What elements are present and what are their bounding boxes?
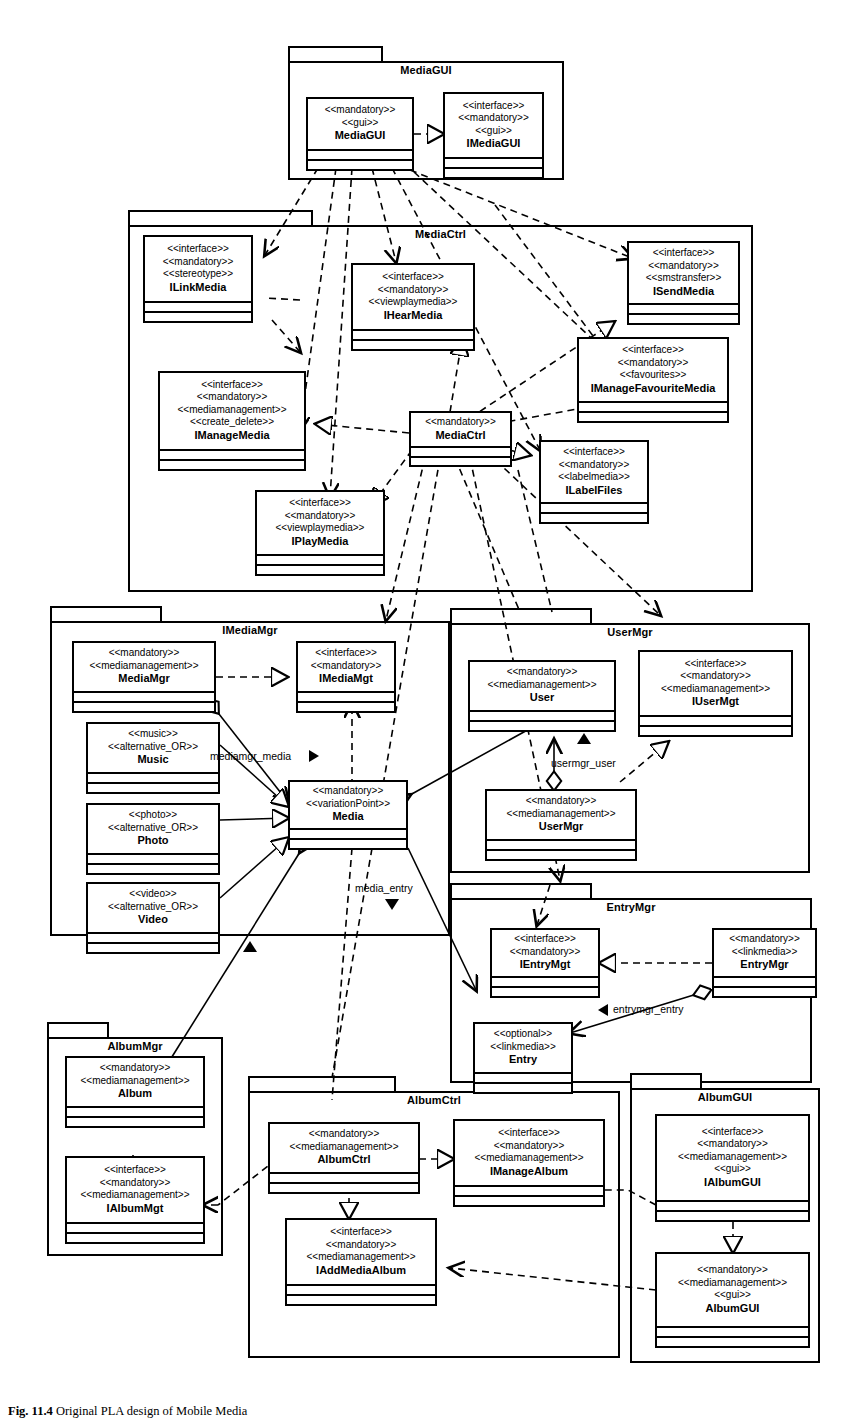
class-header: <<interface>> <<mandatory>> <<viewplayme…	[257, 492, 383, 554]
class-name: MediaCtrl	[435, 429, 485, 443]
navigation-triangle-media-entry	[385, 899, 399, 910]
class-isendmedia[interactable]: <<interface>> <<mandatory>> <<smstransfe…	[627, 241, 740, 325]
class-user[interactable]: <<mandatory>> <<mediamanagement>> User	[468, 660, 616, 732]
stereotype: <<gui>>	[714, 1289, 751, 1302]
class-iusermgt[interactable]: <<interface>> <<mandatory>> <<mediamanag…	[638, 650, 793, 737]
attributes-compartment	[455, 1185, 603, 1195]
operations-compartment	[88, 782, 218, 792]
operations-compartment	[640, 725, 791, 735]
attributes-compartment	[353, 329, 473, 339]
class-mediamgr[interactable]: <<mandatory>> <<mediamanagement>> MediaM…	[72, 641, 216, 713]
class-music[interactable]: <<music>> <<alternative_OR>> Music	[86, 722, 220, 794]
package-title: MediaGUI	[288, 64, 564, 76]
package-tab	[288, 46, 383, 62]
stereotype: <<mandatory>>	[648, 260, 719, 273]
package-title: IMediaMgr	[50, 624, 450, 636]
class-name: Photo	[137, 834, 168, 848]
class-name: IMediaGUI	[467, 137, 521, 151]
stereotype: <<mandatory>>	[526, 795, 597, 808]
class-albumctrl[interactable]: <<mandatory>> <<mediamanagement>> AlbumC…	[268, 1122, 420, 1194]
navigation-triangle-mediamgr-media	[309, 750, 319, 762]
stereotype: <<interface>>	[653, 247, 715, 260]
operations-compartment	[145, 311, 251, 321]
class-mediagui[interactable]: <<mandatory>> <<gui>> MediaGUI	[306, 97, 414, 171]
stereotype: <<stereotype>>	[163, 268, 233, 281]
class-imediamgt[interactable]: <<interface>> <<mandatory>> IMediaMgt	[296, 641, 396, 713]
stereotype: <<mandatory>>	[309, 1128, 380, 1141]
stereotype: <<interface>>	[685, 658, 747, 671]
stereotype: <<viewplaymedia>>	[369, 296, 458, 309]
operations-compartment	[88, 863, 218, 873]
class-ilinkmedia[interactable]: <<interface>> <<mandatory>> <<stereotype…	[143, 235, 253, 323]
operations-compartment	[487, 849, 635, 859]
attributes-compartment	[145, 301, 251, 311]
class-header: <<interface>> <<mandatory>> <<smstransfe…	[629, 243, 738, 303]
attributes-compartment	[298, 691, 394, 701]
class-iplaymedia[interactable]: <<interface>> <<mandatory>> <<viewplayme…	[255, 490, 385, 576]
stereotype: <<gui>>	[342, 117, 379, 130]
class-header: <<interface>> <<mandatory>> <<mediamanag…	[640, 652, 791, 715]
class-header: <<interface>> <<mandatory>> <<stereotype…	[145, 237, 251, 301]
package-tab	[630, 1073, 702, 1089]
class-mediactrl[interactable]: <<mandatory>> MediaCtrl	[409, 411, 512, 467]
stereotype: <<mediamanagement>>	[507, 808, 616, 821]
stereotype: <<mediamanagement>>	[307, 1251, 416, 1264]
class-video[interactable]: <<video>> <<alternative_OR>> Video	[86, 882, 220, 954]
package-tab	[128, 210, 313, 226]
class-imanagealbum[interactable]: <<interface>> <<mandatory>> <<mediamanag…	[453, 1119, 605, 1207]
class-name: Media	[332, 810, 363, 824]
stereotype: <<mandatory>>	[100, 1177, 171, 1190]
class-header: <<photo>> <<alternative_OR>> Photo	[88, 805, 218, 853]
class-name: IPlayMedia	[292, 535, 349, 549]
class-photo[interactable]: <<photo>> <<alternative_OR>> Photo	[86, 803, 220, 875]
stereotype: <<mandatory>>	[311, 660, 382, 673]
attributes-compartment	[290, 828, 406, 838]
class-imanagefavouritemedia[interactable]: <<interface>> <<mandatory>> <<favourites…	[577, 337, 729, 423]
attributes-compartment	[257, 554, 383, 564]
navigation-triangle-album-media	[243, 941, 257, 952]
attributes-compartment	[487, 839, 635, 849]
stereotype: <<optional>>	[494, 1028, 552, 1041]
stereotype: <<alternative_OR>>	[108, 741, 198, 754]
class-usermgr[interactable]: <<mandatory>> <<mediamanagement>> UserMg…	[485, 789, 637, 861]
class-album[interactable]: <<mandatory>> <<mediamanagement>> Album	[65, 1056, 205, 1128]
stereotype: <<mandatory>>	[680, 670, 751, 683]
stereotype: <<smstransfer>>	[646, 272, 722, 285]
class-ialbummgt[interactable]: <<interface>> <<mandatory>> <<mediamanag…	[65, 1156, 205, 1244]
operations-compartment	[270, 1182, 418, 1192]
class-ihearmedia[interactable]: <<interface>> <<mandatory>> <<viewplayme…	[351, 263, 475, 351]
class-iaddmediaalbum[interactable]: <<interface>> <<mandatory>> <<mediamanag…	[285, 1218, 437, 1306]
class-ientrymgt[interactable]: <<interface>> <<mandatory>> IEntryMgt	[490, 928, 600, 998]
class-albumgui[interactable]: <<mandatory>> <<mediamanagement>> <<gui>…	[655, 1252, 810, 1348]
class-name: EntryMgr	[740, 958, 788, 972]
class-header: <<interface>> <<mandatory>> <<labelmedia…	[541, 442, 647, 502]
operations-compartment	[308, 159, 412, 169]
class-ialbumgui[interactable]: <<interface>> <<mandatory>> <<mediamanag…	[655, 1114, 810, 1222]
stereotype: <<linkmedia>>	[732, 946, 798, 959]
class-imediagui[interactable]: <<interface>> <<mandatory>> <<gui>> IMed…	[443, 92, 544, 179]
figure-caption: Fig. 11.4 Original PLA design of Mobile …	[8, 1404, 247, 1419]
stereotype: <<mandatory>>	[163, 256, 234, 269]
stereotype: <<interface>>	[514, 933, 576, 946]
attributes-compartment	[74, 691, 214, 701]
edge-label-media-entry: media_entry	[355, 882, 413, 894]
class-header: <<mandatory>> <<mediamanagement>> User	[470, 662, 614, 710]
stereotype: <<music>>	[128, 728, 177, 741]
operations-compartment	[74, 701, 214, 711]
stereotype: <<mediamanagement>>	[290, 1141, 399, 1154]
attributes-compartment	[287, 1284, 435, 1294]
stereotype: <<mediamanagement>>	[678, 1277, 787, 1290]
stereotype: <<interface>>	[104, 1164, 166, 1177]
class-entry[interactable]: <<optional>> <<linkmedia>> Entry	[473, 1022, 573, 1094]
attributes-compartment	[67, 1106, 203, 1116]
class-imanagemedia[interactable]: <<interface>> <<mandatory>> <<mediamanag…	[158, 371, 306, 471]
package-tab	[50, 606, 162, 622]
stereotype: <<mandatory>>	[197, 391, 268, 404]
class-name: AlbumCtrl	[317, 1153, 370, 1167]
class-entrymgr[interactable]: <<mandatory>> <<linkmedia>> EntryMgr	[712, 928, 817, 998]
edge-label-mediamgr-media: mediamgr_media	[210, 750, 291, 762]
stereotype: <<mediamanagement>>	[81, 1189, 190, 1202]
stereotype: <<mandatory>>	[507, 666, 578, 679]
class-ilabelfiles[interactable]: <<interface>> <<mandatory>> <<labelmedia…	[539, 440, 649, 524]
class-media[interactable]: <<mandatory>> <<variationPoint>> Media	[288, 780, 408, 850]
